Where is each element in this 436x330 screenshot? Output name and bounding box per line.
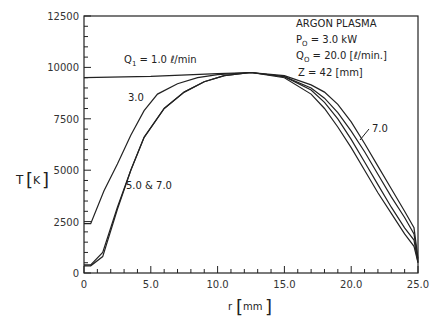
legend-title: ARGON PLASMA (296, 18, 377, 29)
y-axis-label-unit: K (33, 174, 41, 187)
temperature-profile-chart: 05.010.015.020.025.002500500075001000012… (0, 0, 436, 330)
legend-flow: QO = 20.0 [ℓ/min.] (296, 50, 387, 64)
svg-text:r: r (228, 301, 233, 312)
y-axis-label: T [ K ] (15, 169, 49, 190)
x-tick-label: 20.0 (340, 279, 362, 290)
y-tick-label: 12500 (47, 11, 79, 22)
x-tick-label: 0 (81, 279, 87, 290)
y-tick-label: 2500 (54, 217, 79, 228)
x-tick-label: 25.0 (407, 279, 429, 290)
y-tick-label: 0 (73, 268, 79, 279)
svg-text:[: [ (236, 296, 243, 317)
legend-z: Z = 42 [mm] (298, 67, 363, 78)
y-axis-label-T: T (15, 173, 24, 187)
y-tick-label: 5000 (54, 165, 79, 176)
x-tick-label: 15.0 (273, 279, 295, 290)
x-tick-label: 5.0 (143, 279, 159, 290)
svg-text:]: ] (42, 169, 49, 190)
y-tick-label: 10000 (47, 62, 79, 73)
annotation-3: 3.0 (128, 92, 144, 103)
annotation-q1: Q1 = 1.0 ℓ/min (124, 54, 197, 68)
conditions-legend: ARGON PLASMA PO = 3.0 kW QO = 20.0 [ℓ/mi… (296, 18, 387, 78)
y-tick-label: 7500 (54, 114, 79, 125)
legend-power: PO = 3.0 kW (296, 34, 357, 48)
x-axis-label-unit: mm (243, 301, 262, 312)
annotation-5-7: 5.0 & 7.0 (126, 180, 172, 191)
x-axis-label: r [ mm ] (228, 296, 272, 317)
annotation-7-leader (360, 129, 369, 140)
svg-text:]: ] (265, 296, 272, 317)
x-tick-label: 10.0 (206, 279, 228, 290)
svg-text:[: [ (26, 169, 33, 190)
annotation-7: 7.0 (372, 123, 388, 134)
